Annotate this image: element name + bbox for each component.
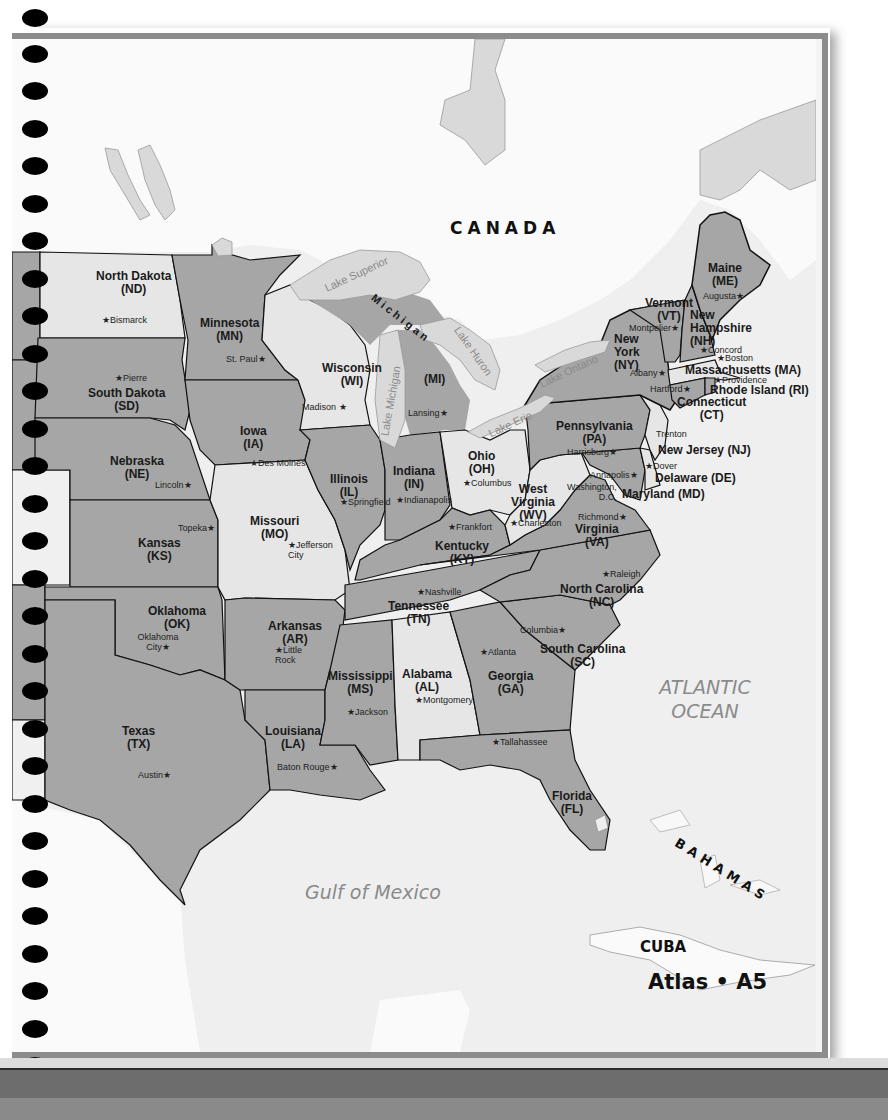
capital-boston: ★Boston	[717, 353, 753, 363]
capital-baton-rouge: Baton Rouge★	[277, 762, 338, 772]
capital-pierre: ★Pierre	[115, 373, 147, 383]
state-label-tx: Texas(TX)	[122, 725, 155, 751]
state-label-nd: North Dakota(ND)	[96, 270, 171, 296]
state-label-ok: Oklahoma(OK)	[148, 605, 206, 631]
binder-rings	[0, 0, 30, 1120]
state-label-ky: Kentucky(KY)	[435, 540, 489, 566]
atlas-page-label: Atlas • A5	[648, 970, 767, 994]
capital-annapolis: Annapolis★	[590, 470, 638, 480]
capital-topeka: Topeka★	[178, 523, 215, 533]
capital-charleston: ★Charleston	[510, 518, 562, 528]
capital-dover: ★Dover	[645, 461, 677, 471]
capital-montgomery: ★Montgomery	[415, 695, 473, 705]
capital-augusta: Augusta★	[703, 291, 744, 301]
capital-madison: Madison ★	[302, 402, 347, 412]
state-label-al: Alabama(AL)	[402, 668, 452, 694]
capital-frankfort: ★Frankfort	[448, 522, 492, 532]
capital-providence: ★Providence	[714, 375, 767, 385]
capital-tallahassee: ★Tallahassee	[492, 737, 548, 747]
state-label-ct: Connecticut(CT)	[677, 396, 746, 422]
capital-montpelier: Montpelier★	[629, 323, 679, 333]
state-label-nh: NewHampshire(NH)	[690, 309, 752, 348]
capital-bismarck: ★Bismarck	[102, 315, 147, 325]
state-label-ny: NewYork(NY)	[614, 333, 640, 372]
capital-columbus: ★Columbus	[463, 478, 512, 488]
state-label-ks: Kansas(KS)	[138, 537, 181, 563]
capital-jefferson-city: ★Jefferson City	[288, 540, 338, 560]
state-label-sc: South Carolina(SC)	[540, 643, 625, 669]
state-ia	[185, 380, 320, 465]
state-label-ar: Arkansas(AR)	[268, 620, 322, 646]
capital-trenton: Trenton	[656, 429, 687, 439]
capital-jackson: ★Jackson	[347, 707, 388, 717]
capital-atlanta: ★Atlanta	[480, 647, 516, 657]
state-label-il: Illinois(IL)	[330, 473, 368, 499]
capital-columbia: Columbia★	[520, 625, 566, 635]
capital-indianapolis: ★Indianapolis	[396, 495, 452, 505]
label-canada: CANADA	[450, 218, 560, 238]
state-label-wi: Wisconsin(WI)	[322, 362, 382, 388]
state-label-mn: Minnesota(MN)	[200, 317, 259, 343]
state-label-pa: Pennsylvania(PA)	[556, 420, 633, 446]
capital-lansing: Lansing★	[408, 408, 448, 418]
state-label-mo: Missouri(MO)	[250, 515, 299, 541]
capital-albany: Albany★	[630, 368, 666, 378]
state-label-ga: Georgia(GA)	[488, 670, 533, 696]
state-label-sd: South Dakota(SD)	[88, 387, 165, 413]
state-label-ia: Iowa(IA)	[240, 425, 267, 451]
state-label-nc: North Carolina(NC)	[560, 583, 643, 609]
state-label-md: Maryland (MD)	[622, 488, 705, 501]
state-label-in: Indiana(IN)	[393, 465, 435, 491]
state-label-vt: Vermont(VT)	[645, 297, 693, 323]
state-label-de: Delaware (DE)	[655, 472, 736, 485]
state-label-la: Louisiana(LA)	[265, 725, 321, 751]
binder-band-dark	[0, 1068, 888, 1102]
capital-hartford: Hartford★	[650, 384, 691, 394]
capital-austin: Austin★	[138, 770, 171, 780]
state-label-fl: Florida(FL)	[552, 790, 592, 816]
binder-band-mid	[0, 1098, 888, 1120]
capital-springfield: ★Springfield	[340, 497, 391, 507]
capital-nashville: ★Nashville	[417, 587, 462, 597]
capital-richmond: Richmond★	[578, 512, 627, 522]
state-label-tn: Tennessee(TN)	[388, 600, 449, 626]
label-atlantic-ocean: ATLANTIC OCEAN	[640, 675, 770, 723]
capital-st-paul: St. Paul★	[226, 354, 266, 364]
state-label-oh: Ohio(OH)	[468, 450, 495, 476]
label-gulf-of-mexico: Gulf of Mexico	[305, 880, 441, 904]
state-label-wv: West Virginia(WV)	[508, 483, 558, 522]
state-label-me: Maine(ME)	[708, 262, 742, 288]
state-sd	[35, 338, 190, 430]
capital-lincoln: Lincoln★	[155, 480, 192, 490]
state-label-ms: Mississippi(MS)	[328, 670, 393, 696]
label-cuba: CUBA	[640, 938, 686, 956]
state-label-nj: New Jersey (NJ)	[658, 444, 751, 457]
state-label-ne: Nebraska(NE)	[110, 455, 164, 481]
capital-raleigh: ★Raleigh	[602, 569, 641, 579]
capital-des-moines: ★Des Moines	[250, 458, 306, 468]
capital-washington-dc: Washington,D.C.	[567, 482, 617, 502]
state-label-mi: (MI)	[424, 373, 445, 386]
capital-little-rock: ★Little Rock	[275, 645, 305, 665]
capital-harrisburg: Harrisburg★	[567, 447, 617, 457]
capital-oklahoma-city: Oklahoma City★	[128, 632, 188, 652]
state-label-va: Virginia(VA)	[575, 523, 619, 549]
